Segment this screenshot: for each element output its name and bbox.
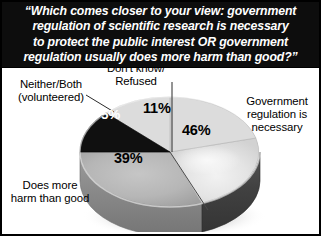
label-government-regulation: Government regulation is necessary — [235, 95, 319, 135]
pie-chart: Don't know/ Refused Neither/Both (volunt… — [2, 68, 319, 232]
value-label-harm: 39% — [114, 150, 142, 166]
question-header: “Which comes closer to your view: govern… — [0, 0, 321, 69]
page-title: “Which comes closer to your view: govern… — [17, 4, 303, 66]
chart-panel: Don't know/ Refused Neither/Both (volunt… — [0, 68, 321, 236]
value-label-government: 46% — [182, 122, 210, 138]
label-does-more-harm: Does more harm than good — [2, 179, 98, 205]
pie-gloss-highlight — [173, 145, 241, 175]
label-dont-know-refused: Don't know/ Refused — [88, 68, 184, 88]
poll-result-figure: “Which comes closer to your view: govern… — [0, 0, 321, 247]
value-label-dont-know: 11% — [143, 100, 171, 116]
label-neither-both: Neither/Both (volunteered) — [3, 78, 99, 104]
value-label-neither: 5% — [101, 107, 120, 122]
